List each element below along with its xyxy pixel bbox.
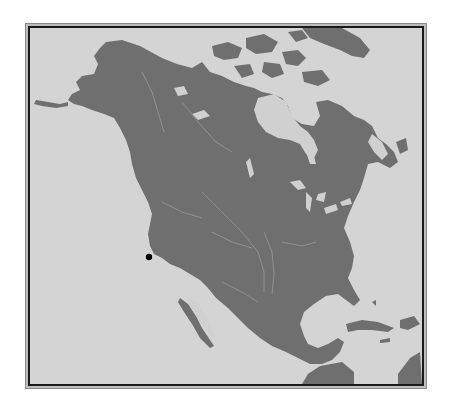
north-america-map bbox=[30, 28, 422, 384]
location-marker-dot[interactable] bbox=[146, 254, 152, 260]
map-frame bbox=[28, 26, 424, 386]
